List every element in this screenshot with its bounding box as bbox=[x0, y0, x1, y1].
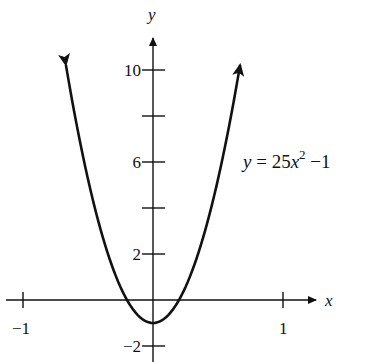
x-tick-label: 1 bbox=[279, 319, 288, 338]
y-axis-label: y bbox=[146, 5, 156, 24]
y-ticks: −22610 bbox=[123, 61, 165, 356]
x-axis-label: x bbox=[324, 291, 333, 310]
y-tick-label: 10 bbox=[124, 61, 141, 80]
y-tick-label: 6 bbox=[133, 153, 142, 172]
equation-label: y = 25x2 −1 bbox=[241, 147, 331, 172]
y-tick-label: −2 bbox=[123, 337, 141, 356]
y-tick-label: 2 bbox=[133, 245, 142, 264]
x-tick-label: −1 bbox=[12, 319, 30, 338]
x-ticks: −11 bbox=[12, 292, 288, 338]
parabola-chart: −11 −22610 x y y = 25x2 −1 bbox=[0, 0, 371, 362]
